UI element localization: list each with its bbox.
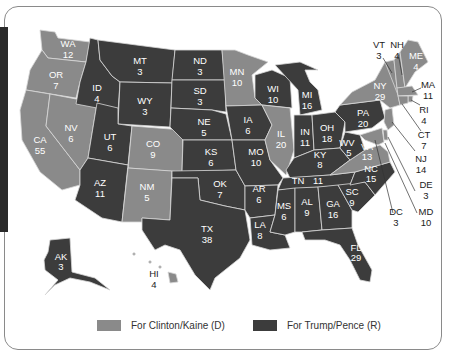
svg-text:14: 14 [416,164,427,175]
svg-text:6: 6 [68,133,73,144]
svg-text:TN: TN [292,175,305,186]
svg-text:GA: GA [326,198,340,209]
svg-text:RI: RI [419,104,429,115]
svg-text:6: 6 [245,125,250,136]
svg-text:10: 10 [232,77,243,88]
svg-text:MN: MN [230,66,245,77]
state-NJ[interactable] [384,108,394,130]
svg-text:4: 4 [421,115,426,126]
svg-text:4: 4 [413,61,418,72]
state-HI[interactable] [168,272,178,283]
svg-text:3: 3 [197,66,202,77]
svg-text:TX: TX [201,223,214,234]
svg-text:18: 18 [322,133,333,144]
svg-text:3: 3 [393,217,398,228]
svg-text:NE: NE [197,116,210,127]
svg-text:CT: CT [418,129,431,140]
svg-text:6: 6 [281,211,286,222]
svg-text:6: 6 [208,157,213,168]
svg-text:CA: CA [33,134,47,145]
state-FL[interactable] [302,228,372,282]
legend-item-democrat: For Clinton/Kaine (D) [97,320,225,331]
state-RI[interactable] [408,96,413,102]
state-HI-islands [133,253,136,256]
svg-text:15: 15 [366,173,377,184]
svg-text:4: 4 [94,93,99,104]
svg-text:5: 5 [144,192,149,203]
svg-text:7: 7 [421,140,426,151]
svg-text:IN: IN [300,126,310,137]
svg-text:4: 4 [151,279,156,290]
svg-text:9: 9 [304,207,309,218]
state-CT[interactable] [398,96,408,105]
svg-text:OR: OR [49,69,63,80]
svg-text:CO: CO [146,138,160,149]
svg-text:8: 8 [317,159,322,170]
svg-text:5: 5 [346,147,351,158]
svg-text:3: 3 [376,50,381,61]
svg-text:6: 6 [107,142,112,153]
svg-text:16: 16 [328,209,339,220]
svg-text:7: 7 [53,80,58,91]
svg-text:11: 11 [95,188,105,199]
legend: For Clinton/Kaine (D) For Trump/Pence (R… [97,320,409,331]
legend-label-republican: For Trump/Pence (R) [287,320,381,331]
svg-text:ID: ID [92,82,102,93]
svg-text:3: 3 [142,106,147,117]
svg-text:ME: ME [409,50,423,61]
svg-text:11: 11 [300,137,310,148]
svg-text:DE: DE [419,179,432,190]
svg-text:HI: HI [149,268,159,279]
legend-label-democrat: For Clinton/Kaine (D) [131,320,225,331]
svg-text:WY: WY [137,95,153,106]
svg-text:7: 7 [217,189,222,200]
svg-text:NY: NY [373,80,387,91]
svg-text:MA: MA [421,79,436,90]
svg-text:WA: WA [61,38,77,49]
svg-text:29: 29 [351,252,362,263]
svg-text:UT: UT [104,131,117,142]
svg-text:10: 10 [421,217,432,228]
svg-text:8: 8 [257,230,262,241]
svg-text:11: 11 [423,90,433,101]
svg-text:6: 6 [256,194,261,205]
svg-text:IA: IA [244,114,254,125]
svg-text:NJ: NJ [415,153,427,164]
svg-text:IL: IL [277,128,285,139]
svg-text:SD: SD [193,85,206,96]
svg-text:WI: WI [267,83,279,94]
legend-swatch-democrat [97,320,121,331]
svg-text:MI: MI [302,89,313,100]
svg-text:AL: AL [301,196,313,207]
svg-text:11: 11 [313,175,323,186]
svg-text:NM: NM [140,181,155,192]
svg-text:AR: AR [252,183,265,194]
svg-text:KS: KS [205,146,218,157]
svg-text:NH: NH [390,39,404,50]
svg-text:PA: PA [357,107,370,118]
svg-text:LA: LA [254,219,266,230]
svg-text:MO: MO [248,146,263,157]
svg-text:9: 9 [150,149,155,160]
svg-text:20: 20 [276,139,287,150]
legend-item-republican: For Trump/Pence (R) [253,320,381,331]
svg-text:DC: DC [389,206,403,217]
svg-text:3: 3 [197,96,202,107]
us-electoral-map: WA12 OR7 CA55 NV6 ID4 MT3 WY3 UT6 CO9 AZ… [0,0,451,357]
svg-text:3: 3 [137,66,142,77]
svg-text:OH: OH [320,122,334,133]
svg-text:MD: MD [419,206,434,217]
svg-text:4: 4 [394,50,399,61]
svg-text:AZ: AZ [94,177,106,188]
svg-text:29: 29 [375,91,386,102]
svg-text:38: 38 [202,234,213,245]
svg-text:10: 10 [251,157,262,168]
svg-text:20: 20 [358,118,369,129]
svg-text:5: 5 [201,127,206,138]
state-AK[interactable] [44,238,110,295]
svg-text:55: 55 [35,145,46,156]
svg-text:OK: OK [213,178,227,189]
svg-text:MT: MT [133,55,147,66]
state-HI-islands [159,266,162,269]
svg-text:SC: SC [345,186,358,197]
